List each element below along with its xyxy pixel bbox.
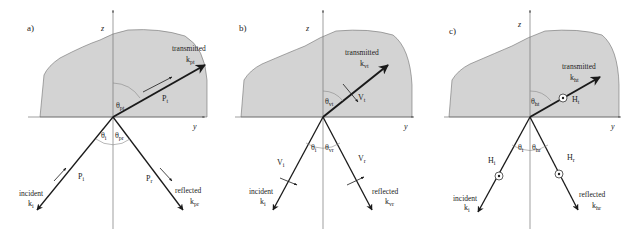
medium-shape <box>40 30 207 117</box>
reflected-label: reflected <box>579 190 605 199</box>
panel-a: a) z y transmitted kpt θpt Pt Pi inciden… <box>19 10 207 229</box>
field-r-label: Vr <box>358 154 366 164</box>
theta-i-label: θi <box>101 131 107 141</box>
z-axis-label: z <box>305 24 310 33</box>
z-axis-label: z <box>517 20 522 29</box>
field-t-dot <box>562 97 564 99</box>
incident-label: incident <box>249 187 274 196</box>
transmitted-label: transmitted <box>345 48 379 57</box>
theta-i-label: θi <box>311 143 317 153</box>
y-axis-label: y <box>403 122 408 131</box>
field-i-arrow <box>54 168 66 181</box>
y-axis-label: y <box>192 122 197 131</box>
incident-ray <box>478 117 530 212</box>
incident-label: incident <box>453 194 478 203</box>
field-r-dot <box>558 173 560 175</box>
z-axis-label: z <box>100 24 105 33</box>
reflected-label: reflected <box>372 187 398 196</box>
theta-i-label: θi <box>518 143 524 153</box>
k-reflected-label: khr <box>592 201 601 211</box>
field-i-label: Pi <box>78 172 84 182</box>
k-reflected-label: kvr <box>385 197 394 207</box>
k-incident-label: ki <box>464 203 470 213</box>
panel-label: c) <box>449 26 456 36</box>
panel-label: b) <box>239 23 247 33</box>
panel-label: a) <box>27 23 34 33</box>
theta-r-label: θhr <box>532 143 541 153</box>
k-incident-label: ki <box>28 199 34 209</box>
k-incident-label: ki <box>260 197 266 207</box>
field-i-dot <box>498 175 500 177</box>
figure-canvas: a) z y transmitted kpt θpt Pt Pi inciden… <box>0 0 637 231</box>
field-r-label: Hr <box>567 153 575 163</box>
panel-b: b) z y transmitted kvt θvt Vt Vi inciden… <box>235 10 414 229</box>
reflected-label: reflected <box>175 186 201 195</box>
field-i-arrow <box>280 178 297 185</box>
transmitted-label: transmitted <box>562 62 596 71</box>
field-r-label: Pr <box>146 174 152 184</box>
k-reflected-label: kpr <box>190 197 199 207</box>
y-axis-label: y <box>610 122 615 131</box>
reflected-ray <box>113 117 183 210</box>
field-r-arrow <box>160 168 172 181</box>
field-i-label: Vi <box>277 158 285 168</box>
theta-r-label: θpr <box>115 131 124 141</box>
theta-r-label: θvr <box>325 143 334 153</box>
reflected-ray <box>530 117 578 210</box>
field-i-label: Hi <box>488 156 496 166</box>
transmitted-label: transmitted <box>172 44 206 53</box>
panel-c: c) z y transmitted kht θht Ht Hi inciden… <box>444 10 621 229</box>
incident-label: incident <box>19 189 44 198</box>
